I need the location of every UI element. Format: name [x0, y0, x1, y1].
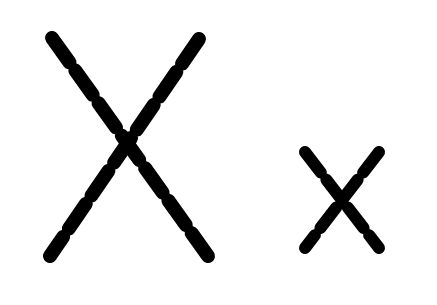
dashed-x-figure-canvas	[0, 0, 437, 305]
figure-root	[0, 0, 437, 305]
